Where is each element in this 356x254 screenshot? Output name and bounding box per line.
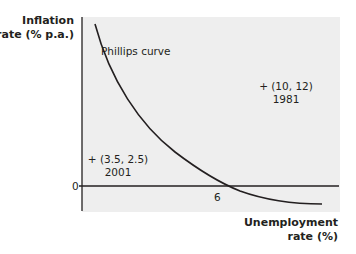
y-axis-label-line1: Inflation: [0, 14, 74, 28]
x-axis-label-line2: rate (%): [244, 230, 338, 244]
annotation-1981: + (10, 12) 1981: [256, 80, 316, 106]
annotation-1981-year: 1981: [256, 93, 316, 106]
x-axis-label: Unemployment rate (%): [244, 216, 338, 244]
annotation-2001-point: + (3.5, 2.5): [83, 153, 153, 166]
y-axis-label: Inflation rate (% p.a.): [0, 14, 74, 42]
annotation-1981-point: + (10, 12): [256, 80, 316, 93]
x-tick-six: 6: [214, 191, 221, 204]
annotation-2001: + (3.5, 2.5) 2001: [83, 153, 153, 179]
annotation-2001-year: 2001: [83, 166, 153, 179]
y-axis-label-line2: rate (% p.a.): [0, 28, 74, 42]
x-axis-label-line1: Unemployment: [244, 216, 338, 230]
curve-label: Phillips curve: [101, 45, 171, 58]
y-tick-zero: 0: [72, 180, 79, 193]
